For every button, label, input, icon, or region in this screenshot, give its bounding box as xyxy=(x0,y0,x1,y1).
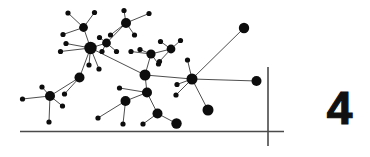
graph-node xyxy=(146,49,155,58)
graph-node xyxy=(114,49,119,54)
graph-node xyxy=(132,32,137,37)
graph-node xyxy=(45,91,55,101)
graph-node xyxy=(252,76,262,86)
graph-node xyxy=(97,35,102,40)
graph-node xyxy=(187,74,198,85)
figure-container: 4 xyxy=(0,0,370,157)
graph-node xyxy=(58,49,63,54)
graph-nodes xyxy=(20,8,262,129)
graph-node xyxy=(99,49,104,54)
graph-node xyxy=(65,10,70,15)
graph-node xyxy=(108,32,113,37)
graph-node xyxy=(157,59,162,64)
graph-node xyxy=(185,57,190,62)
graph-node xyxy=(60,103,65,108)
graph-node xyxy=(140,121,145,126)
graph-node xyxy=(140,70,151,81)
axis-lines xyxy=(20,67,284,146)
graph-node xyxy=(96,66,101,71)
figure-number-label: 4 xyxy=(316,82,362,134)
graph-node xyxy=(142,88,152,98)
graph-node xyxy=(84,42,96,54)
graph-node xyxy=(60,32,65,37)
graph-node xyxy=(171,118,181,128)
graph-node xyxy=(121,96,131,106)
graph-node xyxy=(102,39,111,48)
graph-node xyxy=(121,8,126,13)
graph-node xyxy=(146,11,151,16)
graph-node xyxy=(75,73,85,83)
graph-node xyxy=(158,39,163,44)
graph-node xyxy=(79,23,88,32)
graph-node xyxy=(92,10,97,15)
graph-node xyxy=(239,23,249,33)
graph-node xyxy=(39,84,44,89)
graph-node xyxy=(95,115,100,120)
graph-node xyxy=(63,41,68,46)
graph-node xyxy=(203,105,214,116)
graph-node xyxy=(121,18,131,28)
graph-node xyxy=(86,62,91,67)
graph-edge xyxy=(145,75,192,79)
graph-node xyxy=(137,47,142,52)
graph-edge xyxy=(192,28,244,79)
graph-node xyxy=(62,91,67,96)
graph-node xyxy=(173,92,178,97)
graph-node xyxy=(46,119,51,124)
graph-node xyxy=(153,109,163,119)
graph-node xyxy=(120,121,125,126)
graph-node xyxy=(128,49,133,54)
graph-node xyxy=(117,85,122,90)
graph-node xyxy=(174,82,179,87)
graph-node xyxy=(20,96,25,101)
graph-node xyxy=(167,45,176,54)
network-graph xyxy=(0,0,370,157)
graph-edges xyxy=(23,11,257,125)
graph-edge xyxy=(192,79,257,81)
graph-node xyxy=(178,38,183,43)
